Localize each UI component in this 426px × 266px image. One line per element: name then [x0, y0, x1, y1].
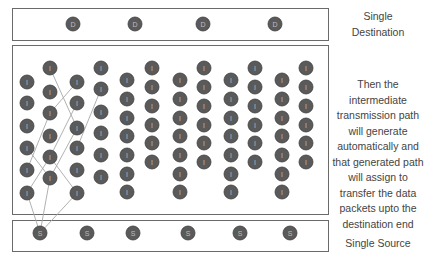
intermediate-node: I [120, 148, 134, 162]
intermediate-node: I [197, 136, 211, 150]
intermediate-node: I [94, 148, 108, 162]
svg-text:I: I [126, 77, 128, 84]
svg-text:I: I [126, 189, 128, 196]
intermediate-node: I [248, 80, 262, 94]
svg-text:I: I [126, 152, 128, 159]
destination-node: D [196, 17, 210, 31]
svg-text:I: I [254, 159, 256, 166]
svg-text:I: I [100, 86, 102, 93]
svg-text:I: I [281, 96, 283, 103]
svg-text:I: I [203, 122, 205, 129]
svg-text:I: I [26, 100, 28, 107]
description-line: packets upto the [330, 201, 426, 217]
destination-label-line: Destination [330, 25, 426, 41]
intermediate-node: I [70, 163, 84, 177]
svg-text:I: I [254, 65, 256, 72]
intermediate-node: I [20, 163, 34, 177]
svg-text:I: I [254, 84, 256, 91]
svg-text:I: I [203, 103, 205, 110]
svg-text:I: I [76, 79, 78, 86]
intermediate-node: I [224, 92, 238, 106]
intermediate-node: I [43, 150, 57, 164]
intermediate-node: I [299, 80, 313, 94]
description-line: intermediate [330, 93, 426, 109]
svg-text:I: I [230, 133, 232, 140]
svg-text:I: I [203, 140, 205, 147]
svg-text:S: S [131, 230, 136, 237]
intermediate-node: I [145, 99, 159, 113]
svg-text:I: I [281, 171, 283, 178]
source-node: S [181, 226, 195, 240]
svg-text:S: S [38, 230, 43, 237]
svg-text:I: I [305, 159, 307, 166]
intermediate-node: I [43, 106, 57, 120]
svg-text:I: I [151, 84, 153, 91]
intermediate-node: I [20, 186, 34, 200]
intermediate-node: I [20, 141, 34, 155]
intermediate-node: I [94, 61, 108, 75]
svg-text:I: I [151, 103, 153, 110]
intermediate-node: I [224, 73, 238, 87]
intermediate-node: I [20, 75, 34, 89]
intermediate-node: I [275, 185, 289, 199]
svg-text:S: S [186, 230, 191, 237]
svg-text:I: I [230, 152, 232, 159]
intermediate-node: I [275, 129, 289, 143]
svg-text:I: I [305, 65, 307, 72]
destination-label: Single Destination [330, 9, 426, 40]
intermediate-node: I [299, 61, 313, 75]
svg-text:I: I [126, 96, 128, 103]
destination-node: D [66, 17, 80, 31]
intermediate-node: I [70, 186, 84, 200]
svg-text:I: I [100, 130, 102, 137]
svg-text:I: I [49, 65, 51, 72]
intermediate-node: I [248, 61, 262, 75]
svg-text:I: I [126, 115, 128, 122]
svg-text:I: I [26, 167, 28, 174]
svg-text:S: S [288, 230, 293, 237]
svg-text:I: I [230, 115, 232, 122]
description-line: that generated path [330, 155, 426, 171]
svg-text:I: I [179, 171, 181, 178]
description-line: will assign to [330, 170, 426, 186]
svg-text:I: I [151, 159, 153, 166]
svg-text:S: S [238, 230, 243, 237]
svg-text:I: I [179, 133, 181, 140]
intermediate-node: I [94, 82, 108, 96]
svg-text:I: I [100, 65, 102, 72]
transmission-path-line [40, 178, 50, 233]
svg-text:I: I [230, 171, 232, 178]
intermediate-node: I [173, 148, 187, 162]
svg-text:I: I [254, 103, 256, 110]
svg-text:I: I [126, 171, 128, 178]
svg-text:I: I [230, 96, 232, 103]
intermediate-node: I [173, 167, 187, 181]
intermediate-node: I [224, 185, 238, 199]
destination-node: D [128, 17, 142, 31]
svg-text:I: I [254, 122, 256, 129]
svg-text:I: I [281, 152, 283, 159]
svg-text:D: D [70, 21, 75, 28]
intermediate-node: I [20, 96, 34, 110]
intermediate-node: I [197, 118, 211, 132]
svg-text:I: I [76, 190, 78, 197]
intermediate-node: I [43, 129, 57, 143]
description-line: transfer the data [330, 186, 426, 202]
intermediate-node: I [70, 75, 84, 89]
intermediate-node: I [145, 155, 159, 169]
svg-text:D: D [272, 21, 277, 28]
intermediate-node: I [224, 148, 238, 162]
svg-text:I: I [179, 115, 181, 122]
svg-text:I: I [100, 152, 102, 159]
svg-text:I: I [76, 145, 78, 152]
intermediate-node: I [43, 171, 57, 185]
svg-text:I: I [305, 140, 307, 147]
intermediate-node: I [120, 185, 134, 199]
svg-text:S: S [85, 230, 90, 237]
source-label: Single Source [330, 236, 426, 252]
svg-text:I: I [49, 175, 51, 182]
svg-text:I: I [281, 115, 283, 122]
intermediate-node: I [248, 118, 262, 132]
svg-text:I: I [76, 100, 78, 107]
intermediate-node: I [173, 111, 187, 125]
